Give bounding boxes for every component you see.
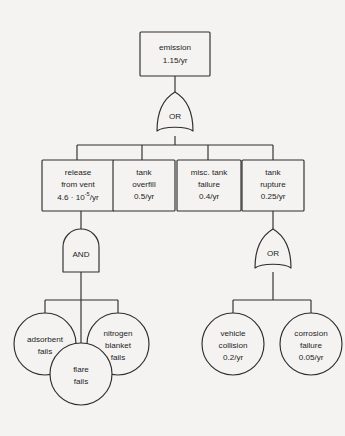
node-vehicle-collision[interactable]: vehicle collision 0.2/yr: [202, 313, 264, 375]
release-from-vent-rate: 4.6 · 10-5/yr: [57, 191, 99, 202]
node-corrosion-failure[interactable]: corrosion failure 0.05/yr: [280, 313, 342, 375]
rate-mantissa: 4.6: [57, 193, 71, 202]
gate-or-top[interactable]: OR: [157, 92, 193, 131]
vehicle-collision-line2: collision: [219, 341, 248, 350]
tank-rupture-rate: 0.25/yr: [261, 192, 286, 201]
node-misc-tank-failure[interactable]: misc. tank failure 0.4/yr: [177, 160, 241, 211]
flare-fails-line1: flare: [73, 365, 89, 374]
tank-overfill-rate: 0.5/yr: [134, 192, 155, 201]
emission-rate: 1.15/yr: [163, 56, 188, 65]
or-gate-top-label: OR: [169, 112, 181, 121]
emission-box[interactable]: [140, 32, 210, 76]
tank-overfill-line2: overfill: [132, 180, 156, 189]
fault-tree-diagram: emission 1.15/yr OR release from vent 4.…: [0, 0, 345, 436]
or-gate-rupture-label: OR: [267, 249, 279, 258]
emission-label: emission: [159, 43, 191, 52]
corrosion-failure-line1: corrosion: [294, 329, 327, 338]
node-flare-fails[interactable]: flare fails: [50, 343, 112, 405]
node-emission[interactable]: emission 1.15/yr: [140, 32, 210, 76]
nitrogen-blanket-fails-line3: fails: [111, 353, 125, 362]
tank-overfill-line1: tank: [136, 168, 152, 177]
node-release-from-vent[interactable]: release from vent 4.6 · 10-5/yr: [42, 160, 114, 211]
gate-or-rupture[interactable]: OR: [255, 229, 291, 268]
vehicle-collision-rate: 0.2/yr: [223, 353, 244, 362]
nitrogen-blanket-fails-line2: blanket: [105, 341, 132, 350]
adsorbent-fails-line2: fails: [38, 347, 52, 356]
nitrogen-blanket-fails-line1: nitrogen: [103, 329, 132, 338]
and-gate-label: AND: [72, 250, 89, 259]
adsorbent-fails-line1: adsorbent: [27, 335, 64, 344]
node-tank-rupture[interactable]: tank rupture 0.25/yr: [242, 160, 304, 211]
gate-and-vent[interactable]: AND: [63, 229, 99, 272]
corrosion-failure-rate: 0.05/yr: [299, 353, 324, 362]
corrosion-failure-line2: failure: [300, 341, 323, 350]
release-from-vent-line1: release: [65, 168, 92, 177]
release-from-vent-line2: from vent: [61, 180, 95, 189]
tank-rupture-line1: tank: [265, 168, 281, 177]
vehicle-collision-line1: vehicle: [220, 329, 246, 338]
rate-unit: /yr: [90, 193, 99, 202]
tank-rupture-line2: rupture: [260, 180, 286, 189]
flare-fails-line2: fails: [74, 377, 88, 386]
misc-tank-failure-line2: failure: [198, 180, 221, 189]
misc-tank-failure-rate: 0.4/yr: [199, 192, 220, 201]
misc-tank-failure-line1: misc. tank: [191, 168, 228, 177]
node-tank-overfill[interactable]: tank overfill 0.5/yr: [113, 160, 175, 211]
